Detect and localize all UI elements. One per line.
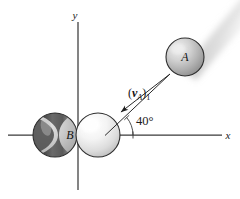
velocity-label-index: 1 <box>146 93 150 102</box>
physics-impact-diagram: y x B A <box>0 0 240 199</box>
diagram-canvas: y x B A <box>0 0 240 199</box>
x-axis-label: x <box>225 129 231 141</box>
y-axis-label: y <box>72 9 78 21</box>
ball-b-label: B <box>66 128 74 142</box>
ball-a-label: A <box>180 50 189 64</box>
angle-label: 40° <box>136 114 154 128</box>
velocity-vector-label: (vA)1 <box>128 86 150 102</box>
ball-b-light <box>76 113 120 157</box>
